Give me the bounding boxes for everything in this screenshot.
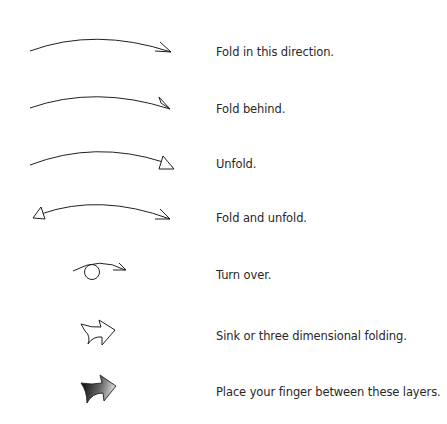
legend-row-sink: Sink or three dimensional folding. (0, 315, 447, 355)
legend-label: Turn over. (216, 268, 271, 282)
legend-row-fold-in-this-direction: Fold in this direction. (0, 30, 447, 70)
legend-label: Fold behind. (216, 102, 285, 116)
unfold-arrow-icon (0, 140, 200, 180)
legend-label: Sink or three dimensional folding. (216, 329, 407, 343)
legend-label: Place your finger between these layers. (216, 385, 441, 399)
turn-over-arrow-icon (0, 258, 200, 298)
mountain-fold-arrow-icon (0, 88, 200, 128)
legend-label: Fold and unfold. (216, 211, 307, 225)
legend-label: Fold in this direction. (216, 45, 334, 59)
legend-row-place-finger: Place your finger between these layers. (0, 373, 447, 413)
place-finger-arrow-icon (0, 373, 200, 413)
fold-and-unfold-arrow-icon (0, 195, 200, 235)
legend-row-turn-over: Turn over. (0, 258, 447, 298)
legend-row-fold-behind: Fold behind. (0, 88, 447, 128)
sink-arrow-icon (0, 315, 200, 355)
legend-row-fold-and-unfold: Fold and unfold. (0, 195, 447, 235)
legend-row-unfold: Unfold. (0, 140, 447, 180)
valley-fold-arrow-icon (0, 30, 200, 70)
legend-label: Unfold. (216, 157, 256, 171)
